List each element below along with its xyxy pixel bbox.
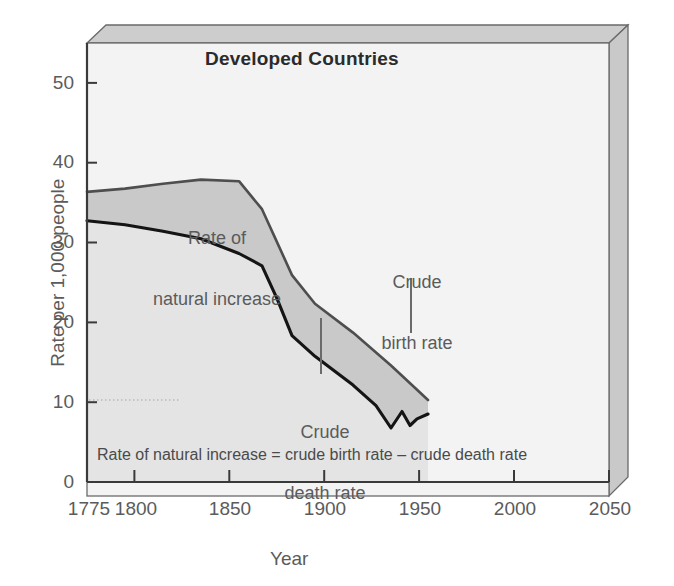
box-top-bevel xyxy=(87,25,628,43)
x-tick-label-1800: 1800 xyxy=(101,498,171,519)
annotation-rate-of-natural-increase: Rate of natural increase xyxy=(122,188,312,349)
x-tick-label-2000: 2000 xyxy=(480,498,550,519)
annotation-cdr-line-1: Crude xyxy=(250,422,400,442)
y-axis-label: Rate per 1,000 people xyxy=(47,163,68,383)
x-tick-label-2050: 2050 xyxy=(575,498,645,519)
x-axis-label: Year xyxy=(270,548,308,569)
y-tick-label-10: 10 xyxy=(28,391,74,412)
formula-note: Rate of natural increase = crude birth r… xyxy=(97,446,527,464)
box-right-bevel xyxy=(609,25,628,496)
y-tick-label-50: 50 xyxy=(28,72,74,93)
chart-figure: Developed Countries Rate per 1,000 peopl… xyxy=(0,0,674,586)
annotation-rni-line-2: natural increase xyxy=(122,289,312,309)
y-tick-label-0: 0 xyxy=(28,471,74,492)
annotation-cdr-line-2: death rate xyxy=(250,483,400,503)
page-title: Developed Countries xyxy=(205,48,399,69)
annotation-cbr-line-2: birth rate xyxy=(342,333,492,353)
annotation-rni-line-1: Rate of xyxy=(122,228,312,248)
y-tick-label-40: 40 xyxy=(28,151,74,172)
y-tick-label-20: 20 xyxy=(28,311,74,332)
y-tick-label-30: 30 xyxy=(28,231,74,252)
annotation-crude-birth-rate: Crude birth rate xyxy=(342,232,492,393)
annotation-cbr-line-1: Crude xyxy=(342,272,492,292)
